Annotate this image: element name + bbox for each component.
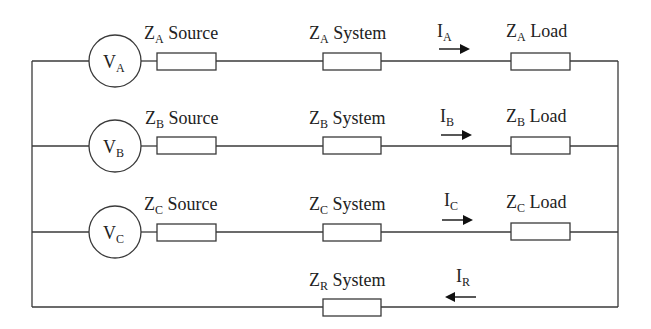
return-path-branch: ZR System IR	[32, 266, 618, 316]
current-r-label: IR	[456, 266, 470, 289]
circuit-diagram: VA ZA Source ZA System IA ZA Load VB ZB …	[0, 0, 651, 329]
system-impedance-b	[323, 137, 381, 154]
load-impedance-b-label: ZB Load	[506, 106, 567, 129]
current-a-arrow-icon	[439, 44, 470, 54]
current-r-arrow-icon	[445, 292, 476, 302]
source-impedance-b-label: ZB Source	[145, 108, 219, 131]
system-impedance-c	[323, 224, 381, 241]
phase-b-branch: VB ZB Source ZB System IB ZB Load	[32, 106, 618, 172]
system-impedance-a-label: ZA System	[309, 23, 386, 46]
source-impedance-c	[157, 224, 216, 241]
load-impedance-c-label: ZC Load	[506, 192, 567, 215]
source-impedance-a	[157, 53, 216, 70]
current-c-label: IC	[444, 190, 458, 213]
system-impedance-a	[323, 53, 381, 70]
system-impedance-b-label: ZB System	[309, 108, 386, 131]
source-impedance-c-label: ZC Source	[144, 194, 218, 217]
load-impedance-b	[511, 137, 570, 154]
system-impedance-r-label: ZR System	[309, 270, 386, 293]
load-impedance-c	[511, 223, 570, 240]
current-a-label: IA	[437, 21, 452, 44]
load-impedance-a	[511, 53, 570, 70]
system-impedance-r	[323, 299, 381, 316]
phase-a-branch: VA ZA Source ZA System IA ZA Load	[32, 21, 618, 87]
current-b-label: IB	[440, 106, 454, 129]
source-impedance-b	[157, 137, 216, 154]
load-impedance-a-label: ZA Load	[506, 21, 567, 44]
current-c-arrow-icon	[442, 215, 473, 225]
source-impedance-a-label: ZA Source	[144, 23, 218, 46]
current-b-arrow-icon	[441, 130, 472, 140]
system-impedance-c-label: ZC System	[309, 194, 386, 217]
phase-c-branch: VC ZC Source ZC System IC ZC Load	[32, 190, 618, 258]
